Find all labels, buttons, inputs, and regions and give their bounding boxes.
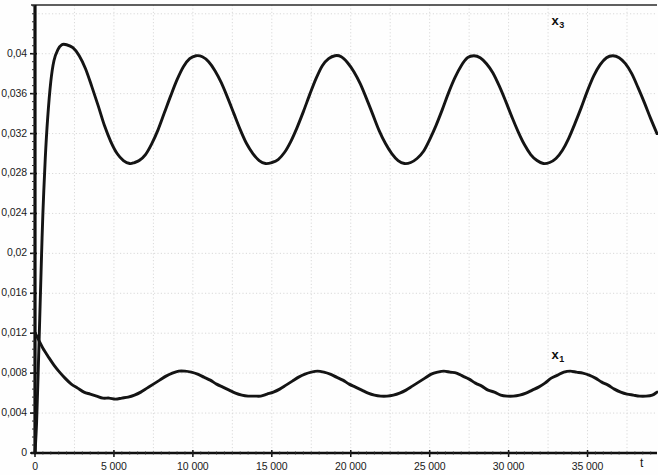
series-label-x3: x3 [552, 13, 564, 28]
y-tick-label: 0,028 [0, 166, 27, 178]
x-axis-title: t [640, 456, 643, 470]
x-tick-label: 30 000 [474, 460, 544, 472]
y-tick-label: 0,04 [0, 47, 27, 59]
y-tick-label: 0,008 [0, 366, 27, 378]
series-label-x1: x1 [552, 347, 564, 362]
x-tick-label: 20 000 [316, 460, 386, 472]
series-line-x3 [35, 44, 657, 453]
series-paths [35, 44, 657, 453]
x-tick-label: 35 000 [553, 460, 623, 472]
y-tick-label: 0,036 [0, 87, 27, 99]
grid-lines [35, 5, 657, 453]
y-tick-label: 0,024 [0, 206, 27, 218]
line-chart-plot [0, 0, 658, 475]
x-tick-label: 5 000 [79, 460, 149, 472]
x-tick-label: 25 000 [395, 460, 465, 472]
y-tick-label: 0,012 [0, 326, 27, 338]
y-tick-label: 0,016 [0, 286, 27, 298]
y-tick-label: 0 [0, 446, 27, 458]
series-line-x1 [35, 333, 657, 399]
x-tick-label: 15 000 [237, 460, 307, 472]
axis-ticks [30, 6, 651, 457]
axis-lines [31, 5, 657, 453]
y-tick-label: 0,004 [0, 406, 27, 418]
chart-container: 00,0040,0080,0120,0160,020,0240,0280,032… [0, 0, 658, 475]
y-tick-label: 0,032 [0, 127, 27, 139]
y-tick-label: 0,02 [0, 246, 27, 258]
x-tick-label: 10 000 [158, 460, 228, 472]
x-tick-label: 0 [0, 460, 70, 472]
